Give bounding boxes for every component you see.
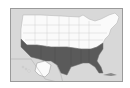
map-frame bbox=[10, 8, 123, 82]
alaska-inset bbox=[35, 61, 51, 77]
caribbean-islands bbox=[103, 73, 117, 76]
contiguous-us-north bbox=[21, 13, 119, 49]
hawaii-inset bbox=[22, 66, 30, 72]
us-map bbox=[11, 9, 123, 82]
